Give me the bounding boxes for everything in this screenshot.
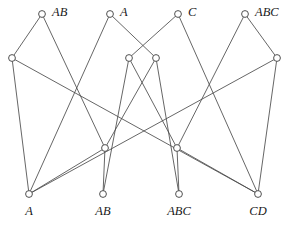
graph-node — [102, 145, 109, 152]
graph-edge — [247, 17, 275, 56]
graph-node — [26, 191, 33, 198]
graph-node — [9, 55, 16, 62]
graph-edge — [14, 17, 40, 55]
graph-edge — [112, 16, 153, 55]
graph-node — [255, 191, 262, 198]
node-label: CD — [249, 204, 266, 218]
graph-edge — [180, 150, 255, 193]
graph-node — [39, 11, 46, 18]
graph-edge — [132, 16, 176, 55]
graph-canvas: ABACABCAABABCCD — [0, 0, 288, 225]
graph-edge — [258, 61, 276, 190]
graph-node — [126, 55, 133, 62]
node-label: AB — [51, 5, 68, 19]
graph-edge — [157, 61, 179, 190]
graph-edge — [15, 60, 255, 193]
edges-layer — [12, 16, 276, 192]
node-label: C — [188, 5, 197, 19]
graph-figure: ABACABCAABABCCD — [0, 0, 288, 225]
node-label: ABC — [254, 5, 279, 19]
graph-node — [242, 11, 249, 18]
graph-node — [175, 11, 182, 18]
nodes-layer — [9, 11, 281, 198]
labels-layer: ABACABCAABABCCD — [24, 5, 279, 218]
graph-node — [107, 11, 114, 18]
graph-edge — [32, 60, 274, 193]
node-label: AB — [94, 204, 111, 218]
graph-node — [274, 55, 281, 62]
graph-edge — [12, 61, 28, 190]
graph-node — [153, 55, 160, 62]
graph-node — [100, 191, 107, 198]
graph-node — [174, 145, 181, 152]
graph-edge — [179, 17, 256, 191]
node-label: A — [24, 204, 33, 218]
graph-edge — [104, 61, 129, 190]
node-label: ABC — [166, 204, 191, 218]
graph-edge — [43, 17, 103, 145]
graph-node — [176, 191, 183, 198]
graph-edge — [30, 17, 108, 191]
node-label: A — [119, 5, 128, 19]
graph-edge — [32, 150, 102, 192]
